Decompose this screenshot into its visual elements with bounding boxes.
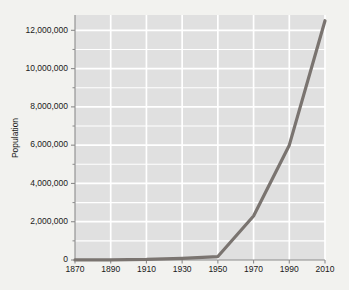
x-tick-label: 1890 (101, 264, 120, 274)
x-tick-label: 1910 (137, 264, 156, 274)
x-tick-label: 1990 (280, 264, 299, 274)
chart-canvas: 02,000,0004,000,0006,000,0008,000,00010,… (0, 0, 349, 290)
plot-area-background (75, 15, 325, 260)
y-tick-label: 8,000,000 (30, 101, 68, 111)
y-tick-label: 2,000,000 (30, 216, 68, 226)
y-tick-label: 12,000,000 (25, 25, 68, 35)
y-tick-label: 4,000,000 (30, 178, 68, 188)
y-tick-label: 6,000,000 (30, 139, 68, 149)
x-tick-label: 1950 (208, 264, 227, 274)
x-tick-label: 1870 (66, 264, 85, 274)
x-tick-label: 1930 (173, 264, 192, 274)
y-tick-label: 10,000,000 (25, 63, 68, 73)
y-tick-label: 0 (63, 254, 68, 264)
y-axis-title: Population (10, 118, 20, 158)
x-tick-label: 1970 (244, 264, 263, 274)
x-tick-label: 2010 (316, 264, 335, 274)
population-line-chart: 02,000,0004,000,0006,000,0008,000,00010,… (0, 0, 349, 290)
